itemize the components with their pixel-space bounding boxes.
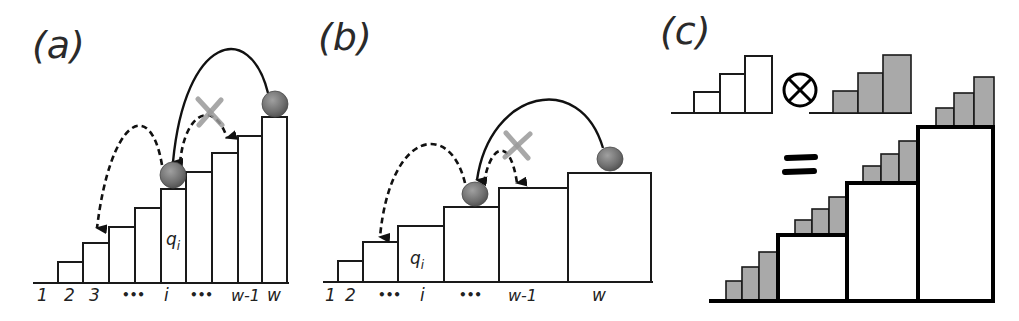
svg-text:w: w — [267, 285, 281, 305]
bar — [363, 242, 398, 282]
bar — [918, 127, 993, 301]
bar — [742, 267, 759, 301]
panel-c: (c) — [660, 9, 995, 301]
svg-text:•••: ••• — [378, 288, 401, 302]
white-staircase — [671, 56, 772, 113]
tensor-product-icon — [784, 74, 816, 106]
bar — [954, 93, 974, 127]
svg-text:2: 2 — [345, 285, 356, 305]
panel-b-label: (b) — [318, 15, 372, 59]
svg-text:w-1: w-1 — [508, 286, 537, 305]
x-axis-labels: 1 2 ••• i ••• w-1 w — [325, 285, 606, 305]
bar — [338, 261, 363, 282]
gray-staircase — [809, 55, 912, 113]
bar — [883, 55, 911, 113]
panel-b: (b) qi 1 2 ••• i ••• w-1 w — [318, 15, 653, 305]
bar-w-minus-1 — [238, 136, 262, 283]
bar — [720, 74, 745, 113]
equals-icon — [785, 157, 815, 172]
bar — [58, 262, 83, 283]
bar — [974, 77, 994, 127]
bar — [694, 92, 720, 113]
bar — [444, 207, 499, 282]
bar — [833, 91, 858, 113]
svg-text:•••: ••• — [122, 288, 145, 302]
panel-c-label: (c) — [660, 9, 711, 53]
bar — [881, 154, 899, 183]
svg-text:w-1: w-1 — [231, 286, 260, 305]
cross-icon — [505, 133, 530, 158]
panel-a-label: (a) — [32, 23, 85, 67]
bar-w — [262, 117, 287, 283]
bar-i — [398, 226, 444, 282]
svg-text:3: 3 — [89, 285, 100, 305]
figure-canvas: (a) qi 1 2 3 ••• i — [0, 0, 1019, 321]
bar — [899, 141, 918, 183]
svg-text:•••: ••• — [459, 288, 482, 302]
bar — [83, 243, 109, 283]
bar — [745, 56, 772, 113]
bar-w-minus-1 — [499, 188, 568, 282]
bar — [863, 166, 881, 183]
svg-text:i: i — [164, 285, 169, 305]
bar — [186, 172, 212, 283]
bar — [135, 208, 161, 283]
bar — [726, 281, 742, 301]
ball-icon — [160, 162, 186, 188]
svg-text:1: 1 — [37, 285, 48, 305]
bar — [812, 209, 829, 235]
x-axis-labels: 1 2 3 ••• i ••• w-1 w — [37, 285, 281, 305]
ball-icon — [262, 91, 288, 117]
bar — [109, 227, 135, 283]
jump-arc-solid — [477, 100, 603, 180]
cross-icon — [198, 99, 222, 125]
bar — [795, 220, 812, 235]
svg-text:1: 1 — [325, 285, 336, 305]
svg-text:w: w — [592, 285, 606, 305]
bar — [847, 183, 918, 301]
ball-icon — [462, 182, 488, 206]
jump-arc-dashed-forbidden — [484, 151, 517, 183]
bar — [829, 197, 847, 235]
ball-icon — [597, 147, 623, 171]
svg-text:2: 2 — [64, 285, 75, 305]
bar-w — [568, 173, 651, 282]
panel-a: (a) qi 1 2 3 ••• i — [32, 23, 289, 305]
svg-text:•••: ••• — [190, 288, 213, 302]
bar — [212, 153, 238, 283]
bar — [778, 235, 847, 301]
bar — [759, 252, 778, 301]
bar — [858, 73, 883, 113]
staircase-bars — [58, 117, 287, 283]
bar — [936, 108, 954, 127]
staircase-bars — [338, 173, 651, 282]
svg-text:i: i — [420, 285, 425, 305]
